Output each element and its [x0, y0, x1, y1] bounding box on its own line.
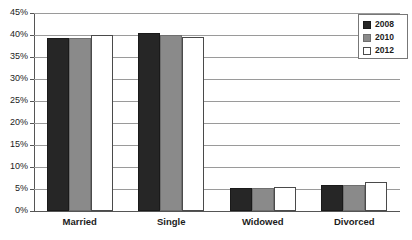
y-tick-label: 10%	[0, 161, 28, 171]
category-label-married: Married	[34, 216, 126, 227]
gridline-45%	[34, 13, 400, 14]
gridline-40%	[34, 35, 400, 36]
y-tick-label: 20%	[0, 117, 28, 127]
category-label-widowed: Widowed	[217, 216, 309, 227]
y-tick-label: 0%	[0, 205, 28, 215]
legend-swatch-2008-icon	[363, 21, 371, 29]
bar-widowed-2012	[274, 187, 296, 211]
y-tick-label: 35%	[0, 51, 28, 61]
bar-divorced-2008	[321, 185, 343, 211]
bar-single-2010	[160, 35, 182, 211]
y-tick-label: 5%	[0, 183, 28, 193]
bar-widowed-2008	[230, 188, 252, 211]
bar-divorced-2010	[343, 185, 365, 211]
bar-widowed-2010	[252, 188, 274, 211]
chart-legend: 2008 2010 2012	[358, 14, 408, 59]
bar-chart: 0%5%10%15%20%25%30%35%40%45% MarriedSing…	[0, 0, 412, 240]
bar-married-2010	[69, 38, 91, 211]
category-label-divorced: Divorced	[309, 216, 401, 227]
y-tick-label: 45%	[0, 7, 28, 17]
y-tick-label: 15%	[0, 139, 28, 149]
bar-married-2008	[47, 38, 69, 211]
legend-label-2010: 2010	[375, 33, 394, 42]
plot-area	[34, 13, 400, 211]
y-tick-label: 25%	[0, 95, 28, 105]
legend-item-2008: 2008	[363, 18, 404, 31]
legend-label-2012: 2012	[375, 46, 394, 55]
y-tick-label: 40%	[0, 29, 28, 39]
gridline-0%	[34, 211, 400, 212]
legend-item-2010: 2010	[363, 31, 404, 44]
bar-single-2012	[182, 37, 204, 211]
legend-swatch-2010-icon	[363, 34, 371, 42]
bar-married-2012	[91, 35, 113, 211]
category-label-single: Single	[126, 216, 218, 227]
bar-single-2008	[138, 33, 160, 211]
legend-item-2012: 2012	[363, 44, 404, 57]
legend-swatch-2012-icon	[363, 47, 371, 55]
bar-divorced-2012	[365, 182, 387, 211]
legend-label-2008: 2008	[375, 20, 394, 29]
y-tick-label: 30%	[0, 73, 28, 83]
